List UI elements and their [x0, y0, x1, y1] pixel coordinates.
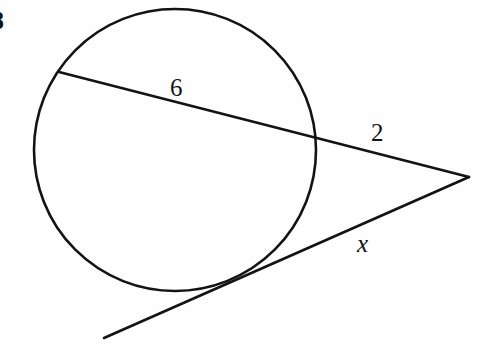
geometry-canvas [0, 0, 489, 347]
geometry-figure: 8 6 2 x [0, 0, 489, 347]
tangent-length-label: x [357, 231, 368, 256]
secant-chord-length-label: 6 [170, 75, 183, 100]
problem-number-label: 8 [0, 8, 4, 34]
secant-external-length-label: 2 [371, 120, 384, 145]
